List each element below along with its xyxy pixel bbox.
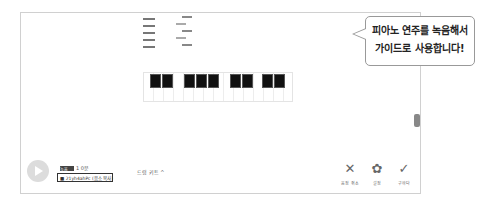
- bubble-line-2: 가이드로 사용합니다!: [366, 40, 474, 58]
- save-button[interactable]: ✓ 구하다: [392, 162, 416, 186]
- staff-lines-left: [143, 18, 155, 53]
- play-button[interactable]: [27, 160, 49, 182]
- speech-bubble: 피아노 연주를 녹음해서 가이드로 사용합니다!: [365, 16, 475, 66]
- record-label: 1 0분: [76, 164, 89, 171]
- gear-icon: ✿: [365, 162, 389, 176]
- cancel-label: 음정 취소: [338, 180, 362, 186]
- black-key[interactable]: [242, 74, 253, 88]
- chevron-up-icon: ^: [160, 169, 164, 175]
- record-badge: 녹음: [60, 166, 74, 171]
- bubble-tail-inner: [354, 29, 366, 39]
- mode-selector[interactable]: 드럼 키트 ^: [137, 168, 164, 175]
- recording-name-box[interactable]: ■ 21yh4ahPc (음소 복사): [57, 173, 113, 182]
- piano-keyboard[interactable]: [143, 72, 293, 102]
- black-key[interactable]: [208, 74, 219, 88]
- cancel-button[interactable]: ✕ 음정 취소: [338, 162, 362, 186]
- black-key[interactable]: [274, 74, 285, 88]
- black-key[interactable]: [150, 74, 161, 88]
- black-key[interactable]: [196, 74, 207, 88]
- mode-label: 드럼 키트: [137, 169, 159, 175]
- black-key[interactable]: [184, 74, 195, 88]
- bubble-line-1: 피아노 연주를 녹음해서: [366, 22, 474, 40]
- scrollbar-thumb[interactable]: [414, 114, 420, 127]
- staff-lines-right: [176, 14, 198, 54]
- close-icon: ✕: [338, 162, 362, 176]
- settings-button[interactable]: ✿ 설정: [365, 162, 389, 186]
- black-key[interactable]: [262, 74, 273, 88]
- black-key[interactable]: [162, 74, 173, 88]
- check-icon: ✓: [392, 162, 416, 176]
- save-label: 구하다: [392, 180, 416, 186]
- settings-label: 설정: [365, 180, 389, 186]
- black-key[interactable]: [230, 74, 241, 88]
